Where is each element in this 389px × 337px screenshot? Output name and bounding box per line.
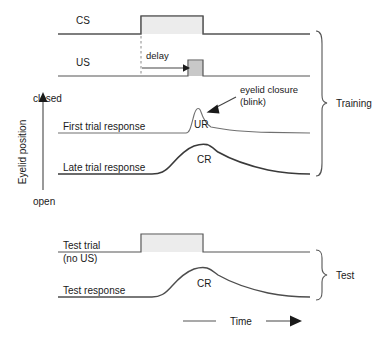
x-axis-title: Time <box>230 316 252 327</box>
y-axis-tick-open: open <box>33 196 55 207</box>
trace-label-late-trial-response: Late trial response <box>63 162 146 173</box>
delay-annotation <box>142 64 190 72</box>
trace-label-test-trial: Test trial <box>63 240 100 251</box>
time-axis-arrowhead <box>290 316 302 327</box>
trace-label-test-response: Test response <box>63 285 126 296</box>
eyelid-closure-annotation <box>207 97 237 114</box>
training-brace-path <box>316 31 327 176</box>
test-trial-pulse-fill <box>142 235 203 252</box>
eyeblink-conditioning-figure: CS US delay closed open Eyelid position … <box>0 0 389 337</box>
cs-pulse-fill <box>142 17 203 34</box>
group-label-training: Training <box>336 98 372 109</box>
trace-cs <box>58 16 310 34</box>
eyelid-closure-label-line2: (blink) <box>240 96 266 107</box>
y-axis-tick-closed: closed <box>33 93 62 104</box>
y-axis-title: Eyelid position <box>17 120 28 184</box>
test-brace-path <box>316 250 327 300</box>
trace-label-us: US <box>76 57 90 68</box>
trace-label-cs: CS <box>76 15 90 26</box>
eyelid-closure-label-line1: eyelid closure <box>240 84 298 95</box>
training-brace <box>316 31 327 176</box>
ur-marker-label: UR <box>194 119 208 130</box>
cr-marker-label-training: CR <box>197 154 211 165</box>
trace-label-test-trial-line2: (no US) <box>63 253 97 264</box>
cr-marker-label-test: CR <box>197 278 211 289</box>
y-axis <box>39 92 48 190</box>
delay-label: delay <box>146 50 169 61</box>
group-label-test: Test <box>336 270 355 281</box>
eyelid-closure-arrowhead <box>207 105 220 114</box>
us-pulse-fill <box>189 61 203 76</box>
trace-label-first-trial-response: First trial response <box>63 121 146 132</box>
test-brace <box>316 250 327 300</box>
